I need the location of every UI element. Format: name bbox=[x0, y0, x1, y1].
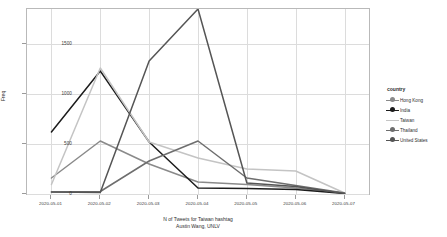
x-tick-mark-0 bbox=[50, 195, 51, 199]
chart-credit: Austin Wang, UNLV bbox=[26, 223, 370, 230]
y-tick-mark-1 bbox=[22, 143, 26, 144]
x-axis-title-line1: N of Tweets for Taiwan hashtag bbox=[26, 216, 370, 223]
legend-title: country bbox=[387, 86, 446, 92]
legend-item-label: India bbox=[400, 108, 410, 113]
x-tick-mark-5 bbox=[295, 195, 296, 199]
y-tick-label-3: 1500 bbox=[61, 41, 72, 46]
series-line-taiwan bbox=[51, 68, 344, 193]
legend-item-label: Taiwan bbox=[400, 118, 414, 123]
x-tick-label-4: 2020-05-05 bbox=[234, 201, 257, 206]
x-tick-label-5: 2020-05-06 bbox=[283, 201, 306, 206]
x-tick-label-0: 2020-05-01 bbox=[39, 201, 62, 206]
gridline-horizontal-0 bbox=[27, 194, 369, 195]
legend-swatch-icon bbox=[386, 135, 399, 145]
x-tick-mark-6 bbox=[344, 195, 345, 199]
y-tick-label-2: 1000 bbox=[61, 91, 72, 96]
legend-swatch-icon bbox=[386, 115, 399, 125]
y-tick-mark-0 bbox=[22, 193, 26, 194]
y-tick-label-1: 500 bbox=[64, 141, 72, 146]
legend: country Hong KongIndiaTaiwanThailandUnit… bbox=[386, 86, 446, 145]
legend-swatch-icon bbox=[386, 105, 399, 115]
x-tick-mark-3 bbox=[197, 195, 198, 199]
series-line-hong-kong bbox=[51, 141, 344, 193]
series-line-india bbox=[51, 71, 344, 194]
x-tick-mark-4 bbox=[246, 195, 247, 199]
y-tick-label-0: 0 bbox=[69, 191, 72, 196]
chart-figure: 050010001500 2020-05-012020-05-022020-05… bbox=[0, 0, 447, 237]
legend-item-label: Thailand bbox=[400, 128, 418, 133]
x-tick-label-2: 2020-05-03 bbox=[137, 201, 160, 206]
x-tick-mark-2 bbox=[148, 195, 149, 199]
legend-item-label: United States bbox=[400, 138, 428, 143]
legend-items: Hong KongIndiaTaiwanThailandUnited State… bbox=[386, 95, 446, 145]
y-axis-title: Freq bbox=[0, 91, 6, 102]
series-line-thailand bbox=[51, 141, 344, 193]
legend-item-label: Hong Kong bbox=[400, 98, 423, 103]
series-line-united-states bbox=[51, 9, 344, 194]
y-tick-mark-3 bbox=[22, 43, 26, 44]
x-axis-title: N of Tweets for Taiwan hashtag Austin Wa… bbox=[26, 216, 370, 230]
legend-swatch-icon bbox=[386, 95, 399, 105]
plot-area bbox=[26, 8, 370, 195]
legend-item-hong-kong[interactable]: Hong Kong bbox=[386, 95, 446, 105]
legend-swatch-icon bbox=[386, 125, 399, 135]
legend-item-taiwan[interactable]: Taiwan bbox=[386, 115, 446, 125]
series-lines bbox=[27, 9, 369, 194]
x-tick-label-1: 2020-05-02 bbox=[88, 201, 111, 206]
x-tick-mark-1 bbox=[99, 195, 100, 199]
y-tick-mark-2 bbox=[22, 93, 26, 94]
legend-item-thailand[interactable]: Thailand bbox=[386, 125, 446, 135]
x-tick-label-6: 2020-05-07 bbox=[332, 201, 355, 206]
x-tick-label-3: 2020-05-04 bbox=[186, 201, 209, 206]
legend-item-india[interactable]: India bbox=[386, 105, 446, 115]
legend-item-united-states[interactable]: United States bbox=[386, 135, 446, 145]
